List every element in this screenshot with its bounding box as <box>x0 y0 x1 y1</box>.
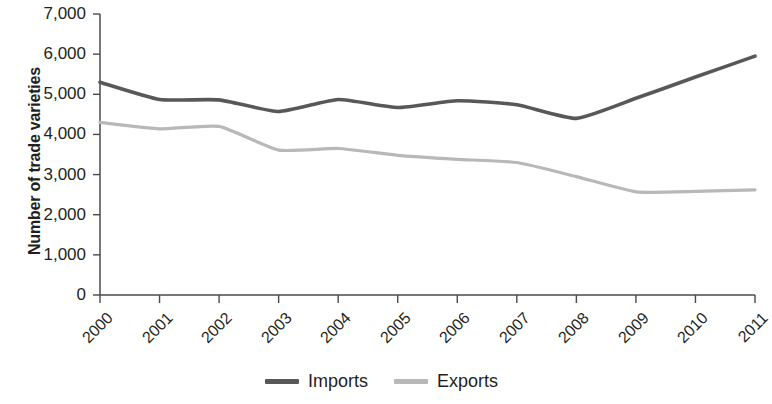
series-line-exports <box>100 122 755 192</box>
legend-label: Exports <box>437 372 498 390</box>
legend-entry-imports[interactable]: Imports <box>265 372 368 390</box>
axis-lines <box>100 14 755 295</box>
y-tick-label: 4,000 <box>16 125 86 142</box>
y-tick-label: 6,000 <box>16 45 86 62</box>
series-line-imports <box>100 56 755 118</box>
chart-legend: ImportsExports <box>0 372 763 390</box>
y-tick-label: 3,000 <box>16 166 86 183</box>
y-tick-label: 1,000 <box>16 246 86 263</box>
data-series-lines <box>100 56 755 192</box>
legend-entry-exports[interactable]: Exports <box>394 372 498 390</box>
legend-swatch-icon <box>394 379 428 384</box>
y-tick-label: 2,000 <box>16 206 86 223</box>
y-tick-label: 0 <box>16 286 86 303</box>
legend-label: Imports <box>308 372 368 390</box>
y-tick-label: 5,000 <box>16 85 86 102</box>
y-tick-label: 7,000 <box>16 5 86 22</box>
legend-swatch-icon <box>265 379 299 384</box>
